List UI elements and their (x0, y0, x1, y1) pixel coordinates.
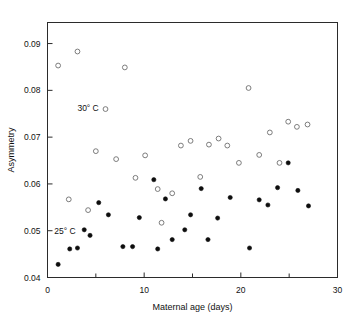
data-point-filled (56, 262, 60, 266)
data-point-filled (286, 161, 290, 165)
data-point-open (295, 124, 300, 129)
data-point-open (257, 153, 262, 158)
annotations-group: 30° C25° C (54, 103, 99, 236)
data-point-filled (82, 228, 86, 232)
data-point-open (86, 208, 91, 213)
data-point-open (93, 149, 98, 154)
y-tick-label: 0.09 (24, 39, 41, 49)
series-1-points (56, 49, 310, 225)
data-points-group (56, 49, 311, 266)
y-tick-label: 0.04 (24, 273, 41, 283)
data-point-filled (121, 245, 125, 249)
axes-group (48, 23, 338, 278)
data-point-open (179, 143, 184, 148)
data-point-open (114, 157, 119, 162)
data-point-filled (156, 247, 160, 251)
data-point-open (103, 107, 108, 112)
plot-frame (48, 23, 338, 278)
data-point-filled (247, 246, 251, 250)
data-point-open (122, 65, 127, 70)
data-point-open (155, 187, 160, 192)
y-tick-label: 0.07 (24, 132, 41, 142)
data-point-open (159, 220, 164, 225)
tick-labels-group: 0.040.050.060.070.080.090102030 (24, 39, 343, 295)
y-axis-title: Asymmetry (6, 127, 16, 173)
data-point-filled (228, 195, 232, 199)
x-tick-label: 0 (45, 285, 50, 295)
data-point-open (75, 49, 80, 54)
data-point-filled (68, 247, 72, 251)
data-point-filled (296, 188, 300, 192)
series-annotation-2: 25° C (54, 226, 75, 236)
data-point-filled (163, 197, 167, 201)
data-point-open (198, 175, 203, 180)
y-tick-label: 0.05 (24, 226, 41, 236)
data-point-open (170, 191, 175, 196)
data-point-open (277, 160, 282, 165)
axis-titles-group: Maternal age (days)Asymmetry (6, 127, 233, 312)
data-point-open (133, 175, 138, 180)
data-point-open (143, 153, 148, 158)
x-tick-label: 10 (139, 285, 149, 295)
data-point-filled (88, 233, 92, 237)
x-tick-label: 30 (333, 285, 343, 295)
data-point-open (225, 143, 230, 148)
data-point-open (188, 138, 193, 143)
data-point-open (237, 160, 242, 165)
data-point-filled (130, 245, 134, 249)
y-tick-label: 0.08 (24, 85, 41, 95)
data-point-filled (199, 187, 203, 191)
data-point-filled (216, 216, 220, 220)
data-point-filled (306, 204, 310, 208)
data-point-filled (266, 203, 270, 207)
y-tick-label: 0.06 (24, 179, 41, 189)
data-point-filled (275, 186, 279, 190)
data-point-open (66, 197, 71, 202)
data-point-open (267, 130, 272, 135)
data-point-filled (170, 238, 174, 242)
scatter-plot-figure: 0.040.050.060.070.080.090102030 30° C25°… (0, 0, 345, 315)
data-point-open (207, 142, 212, 147)
plot-canvas: 0.040.050.060.070.080.090102030 30° C25°… (0, 0, 345, 315)
x-axis-title: Maternal age (days) (152, 302, 232, 312)
series-2-points (56, 161, 311, 267)
tick-marks-group (48, 44, 290, 278)
data-point-open (246, 86, 251, 91)
data-point-filled (137, 216, 141, 220)
data-point-open (305, 122, 310, 127)
data-point-open (56, 63, 61, 68)
data-point-open (216, 136, 221, 141)
data-point-filled (97, 201, 101, 205)
data-point-filled (188, 213, 192, 217)
data-point-filled (257, 198, 261, 202)
x-tick-label: 20 (236, 285, 246, 295)
series-annotation-1: 30° C (77, 103, 98, 113)
data-point-filled (75, 246, 79, 250)
data-point-filled (183, 228, 187, 232)
data-point-filled (152, 178, 156, 182)
data-point-open (286, 119, 291, 124)
data-point-filled (106, 213, 110, 217)
data-point-filled (206, 238, 210, 242)
